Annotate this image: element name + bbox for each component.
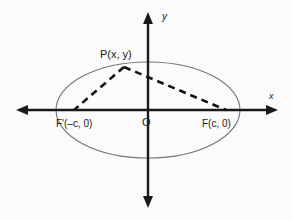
- y-axis-label: y: [162, 12, 167, 22]
- ellipse-diagram-canvas: [0, 0, 292, 220]
- point-p-label: P(x, y): [100, 49, 132, 60]
- origin-label: O: [142, 117, 151, 128]
- focus-left-label: F'(–c, 0): [56, 119, 92, 129]
- y-axis-up-arrow-icon: [143, 12, 153, 24]
- x-axis-label: x: [269, 92, 274, 101]
- x-axis-left-arrow-icon: [16, 105, 28, 115]
- focus-right-label: F(c, 0): [202, 119, 231, 129]
- y-axis-down-arrow-icon: [143, 196, 153, 208]
- focal-radius-right-dashed: [124, 67, 226, 110]
- ellipse-figure: P(x, y) F'(–c, 0) F(c, 0) O x y: [0, 0, 292, 220]
- x-axis-right-arrow-icon: [266, 105, 278, 115]
- focal-radius-left-dashed: [74, 67, 124, 110]
